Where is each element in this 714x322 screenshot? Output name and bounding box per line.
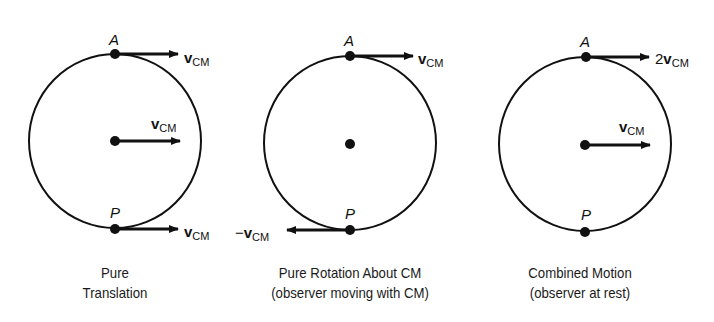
- caption-line: Combined Motion: [492, 263, 668, 283]
- center-velocity-label: vCM: [619, 118, 644, 137]
- bottom-velocity-label: −vCM: [235, 224, 269, 243]
- point-p-label: P: [110, 204, 120, 221]
- caption-line: Pure Rotation About CM: [236, 263, 465, 283]
- caption-combined-motion: Combined Motion (observer at rest): [492, 263, 668, 303]
- caption-line: (observer at rest): [492, 283, 668, 303]
- caption-line: Pure: [49, 263, 181, 283]
- panel-pure-translation: A P vCM vCM vCM: [29, 31, 209, 242]
- point-p-dot: [580, 227, 590, 237]
- center-dot: [345, 139, 355, 149]
- top-velocity-label: 2vCM: [655, 50, 689, 69]
- point-a-label: A: [343, 32, 354, 49]
- panel-pure-rotation: A P vCM −vCM: [235, 32, 443, 243]
- bottom-velocity-label: vCM: [184, 223, 209, 242]
- caption-line: (observer moving with CM): [236, 283, 465, 303]
- panel-combined-motion: A P 2vCM vCM: [499, 33, 689, 237]
- center-velocity-label: vCM: [151, 115, 176, 134]
- caption-pure-translation: Pure Translation: [49, 263, 181, 303]
- point-p-label: P: [345, 205, 355, 222]
- caption-pure-rotation: Pure Rotation About CM (observer moving …: [236, 263, 465, 303]
- point-p-label: P: [581, 206, 591, 223]
- top-velocity-label: vCM: [418, 50, 443, 69]
- point-a-label: A: [108, 31, 119, 48]
- caption-line: Translation: [49, 283, 181, 303]
- top-velocity-label: vCM: [184, 49, 209, 68]
- point-a-label: A: [579, 33, 590, 50]
